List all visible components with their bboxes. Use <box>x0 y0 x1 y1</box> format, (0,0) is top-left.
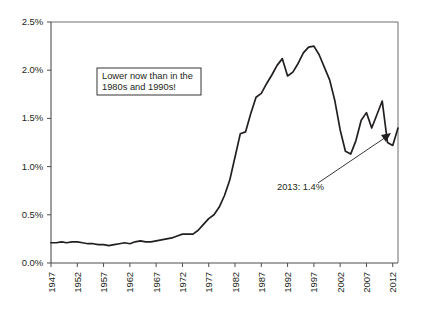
callout-line-2: 1980s and 1990s! <box>102 82 176 92</box>
x-tick-label: 1977 <box>203 272 214 293</box>
end-label-text: 2013: 1.4% <box>277 182 324 192</box>
y-tick-label: 2.5% <box>22 16 44 27</box>
y-tick-label: 0.5% <box>22 209 44 220</box>
x-tick-label: 1957 <box>98 272 109 293</box>
x-tick-label: 1997 <box>308 272 319 293</box>
y-tick-label: 0.0% <box>22 257 44 268</box>
x-tick-label: 1947 <box>46 272 57 293</box>
x-tick-label: 1952 <box>72 272 83 293</box>
x-tick-label: 2012 <box>387 272 398 293</box>
x-tick-label: 2002 <box>335 272 346 293</box>
x-tick-label: 1987 <box>256 272 267 293</box>
x-tick-label: 1962 <box>124 272 135 293</box>
callout-line-1: Lower now than in the <box>102 71 193 81</box>
x-tick-label: 2007 <box>361 272 372 293</box>
x-tick-label: 1982 <box>230 272 241 293</box>
x-tick-label: 1967 <box>151 272 162 293</box>
x-tick-label: 1972 <box>177 272 188 293</box>
y-tick-label: 1.5% <box>22 112 44 123</box>
chart-container: 0.0%0.5%1.0%1.5%2.0%2.5% 194719521957196… <box>0 0 422 311</box>
y-tick-label: 1.0% <box>22 161 44 172</box>
x-tick-label: 1992 <box>282 272 293 293</box>
line-chart: 0.0%0.5%1.0%1.5%2.0%2.5% 194719521957196… <box>0 0 422 311</box>
callout-annotation: Lower now than in the 1980s and 1990s! <box>97 68 201 95</box>
y-tick-label: 2.0% <box>22 64 44 75</box>
